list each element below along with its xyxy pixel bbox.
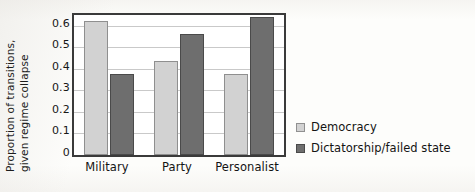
bar-military-democracy bbox=[84, 21, 108, 155]
legend-label-democracy: Democracy bbox=[311, 120, 377, 134]
y-axis-tick-labels: 00.10.20.30.40.50.6 bbox=[36, 13, 70, 157]
x-label-personalist: Personalist bbox=[212, 160, 282, 174]
x-label-military: Military bbox=[72, 160, 142, 174]
plot-area bbox=[72, 13, 286, 157]
bar-party-democracy bbox=[154, 61, 178, 155]
legend-swatch-democracy-icon bbox=[296, 123, 305, 132]
y-tick-0.5: 0.5 bbox=[40, 38, 70, 51]
y-axis-title-line-2: given regime collapse bbox=[18, 54, 30, 172]
x-label-party: Party bbox=[142, 160, 212, 174]
chart-legend: Democracy Dictatorship/failed state bbox=[296, 120, 472, 162]
chart-figure: Proportion of transitions, given regime … bbox=[0, 0, 475, 192]
y-tick-0.3: 0.3 bbox=[40, 81, 70, 94]
bar-party-dictatorship-failed-state bbox=[180, 34, 204, 155]
y-axis-title-line-1: Proportion of transitions, bbox=[4, 40, 16, 172]
y-tick-0.6: 0.6 bbox=[40, 17, 70, 30]
legend-label-dictatorship: Dictatorship/failed state bbox=[311, 141, 451, 155]
legend-swatch-dictatorship-icon bbox=[296, 144, 305, 153]
bar-personalist-democracy bbox=[224, 74, 248, 155]
bar-military-dictatorship-failed-state bbox=[110, 74, 134, 155]
legend-item-dictatorship: Dictatorship/failed state bbox=[296, 141, 472, 155]
y-tick-0.1: 0.1 bbox=[40, 124, 70, 137]
x-axis-category-labels: MilitaryPartyPersonalist bbox=[72, 160, 286, 180]
y-tick-0: 0 bbox=[40, 146, 70, 159]
y-tick-0.2: 0.2 bbox=[40, 103, 70, 116]
bar-personalist-dictatorship-failed-state bbox=[250, 17, 274, 155]
y-tick-0.4: 0.4 bbox=[40, 60, 70, 73]
legend-item-democracy: Democracy bbox=[296, 120, 472, 134]
